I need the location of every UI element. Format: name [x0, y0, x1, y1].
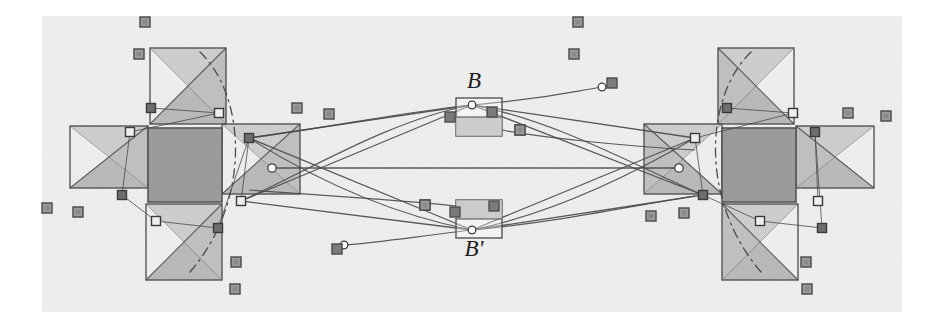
hub-marker-1 [487, 107, 497, 117]
scatter-marker-2-core [576, 20, 581, 25]
scatter-marker-13-core [682, 211, 687, 216]
right-cluster-hinge-node-1 [789, 109, 798, 118]
hub-marker-2 [450, 207, 460, 217]
scatter-marker-6 [292, 103, 302, 113]
tail-upper-right-marker [607, 78, 617, 88]
left-cluster-hinge-node-4 [152, 217, 161, 226]
figure-root: BB' [0, 0, 941, 333]
scatter-marker-10 [801, 257, 811, 267]
scatter-marker-15-core [884, 114, 889, 119]
scatter-marker-5 [73, 207, 83, 217]
hub-marker-0 [445, 112, 455, 122]
scatter-marker-14 [843, 108, 853, 118]
right-cluster-hinge-node-4 [756, 217, 765, 226]
hub-open-node-0 [468, 101, 476, 109]
right-cluster-center-square [722, 128, 796, 202]
scatter-marker-8 [230, 284, 240, 294]
hub-open-node-1 [468, 226, 476, 234]
scatter-marker-17 [420, 200, 430, 210]
scatter-marker-12-core [649, 214, 654, 219]
scatter-marker-12 [646, 211, 656, 221]
right-cluster-hinge-node-5 [818, 224, 827, 233]
scatter-marker-8-core [233, 287, 238, 292]
scatter-marker-16-core [518, 128, 523, 133]
right-cluster-pivot-node [675, 164, 683, 172]
label-B: B [467, 68, 481, 93]
scatter-marker-3 [569, 49, 579, 59]
scatter-marker-11 [802, 284, 812, 294]
scatter-marker-17-core [423, 203, 428, 208]
scatter-marker-7 [324, 109, 334, 119]
right-cluster-hinge-node-3 [699, 191, 708, 200]
right-cluster-hinge-node-0 [723, 104, 732, 113]
right-cluster-hinge-node-2 [691, 134, 700, 143]
scatter-marker-7-core [327, 112, 332, 117]
label-Bprime: B' [465, 236, 485, 261]
scatter-marker-13 [679, 208, 689, 218]
scatter-marker-10-core [804, 260, 809, 265]
left-cluster-hinge-node-5 [214, 224, 223, 233]
scatter-marker-6-core [295, 106, 300, 111]
scatter-marker-4 [42, 203, 52, 213]
left-cluster-hinge-node-6 [245, 134, 254, 143]
scatter-marker-9 [231, 257, 241, 267]
scatter-marker-16 [515, 125, 525, 135]
tail-upper-right-node [598, 83, 606, 91]
scatter-marker-3-core [572, 52, 577, 57]
left-cluster-hinge-node-7 [237, 197, 246, 206]
scatter-marker-2 [573, 17, 583, 27]
left-cluster-center-square [148, 128, 222, 202]
hub-marker-3 [489, 201, 499, 211]
scatter-marker-1 [134, 49, 144, 59]
scatter-marker-15 [881, 111, 891, 121]
scatter-marker-11-core [805, 287, 810, 292]
right-cluster-hinge-node-6 [811, 128, 820, 137]
left-cluster-hinge-node-2 [126, 128, 135, 137]
left-cluster-hinge-node-0 [147, 104, 156, 113]
tail-lower-left-marker [332, 244, 342, 254]
scatter-marker-4-core [45, 206, 50, 211]
right-cluster-hinge-node-7 [814, 197, 823, 206]
scatter-marker-5-core [76, 210, 81, 215]
left-cluster-hinge-node-3 [118, 191, 127, 200]
left-cluster-pivot-node [268, 164, 276, 172]
scatter-marker-14-core [846, 111, 851, 116]
scatter-marker-1-core [137, 52, 142, 57]
geometric-figure-svg: BB' [0, 0, 941, 333]
left-cluster-hinge-node-1 [215, 109, 224, 118]
hub-B-shade [456, 117, 502, 136]
scatter-marker-9-core [234, 260, 239, 265]
scatter-marker-0-core [143, 20, 148, 25]
scatter-marker-0 [140, 17, 150, 27]
